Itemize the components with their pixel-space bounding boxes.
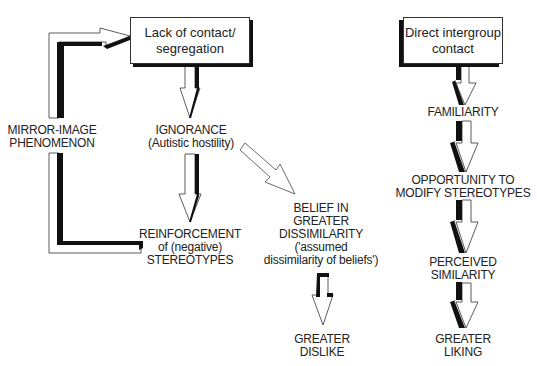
feedback-loop-top-arrow: [49, 28, 130, 118]
arrow-familiarity-to-opportunity: [450, 121, 478, 172]
node-direct-contact-line2: contact: [404, 41, 502, 57]
familiarity-line1: FAMILIARITY: [427, 106, 498, 119]
arrow-contact-to-familiarity: [452, 63, 476, 105]
arrow-belief-to-dislike: [312, 273, 333, 325]
node-lack-of-contact-line2: segregation: [131, 41, 249, 57]
belief-line5: dissimilarity of beliefs'): [264, 254, 378, 267]
node-lack-of-contact-line1: Lack of contact/: [131, 25, 249, 41]
node-greater-dislike: GREATER DISLIKE: [294, 333, 350, 359]
opportunity-line2: MODIFY STEREOTYPES: [396, 187, 531, 200]
mirror-image-line2: PHENOMENON: [8, 137, 97, 150]
node-perceived-similarity: PERCEIVED SIMILARITY: [429, 256, 497, 282]
ignorance-line2: (Autistic hostility): [148, 137, 234, 150]
reinforcement-line3: STEREOTYPES: [139, 254, 241, 267]
arrow-opportunity-to-similarity: [450, 200, 478, 253]
arrow-similarity-to-liking: [450, 282, 478, 328]
arrow-segregation-to-ignorance: [180, 63, 200, 118]
node-lack-of-contact: Lack of contact/ segregation: [130, 17, 250, 64]
node-belief-dissimilarity: BELIEF IN GREATER DISSIMILARITY ('assume…: [264, 202, 378, 267]
node-mirror-image: MIRROR-IMAGE PHENOMENON: [8, 124, 97, 150]
node-opportunity: OPPORTUNITY TO MODIFY STEREOTYPES: [396, 174, 531, 200]
arrow-ignorance-to-reinforcement: [179, 154, 201, 222]
node-greater-liking: GREATER LIKING: [435, 333, 491, 359]
node-ignorance: IGNORANCE (Autistic hostility): [148, 124, 234, 150]
dislike-line2: DISLIKE: [294, 346, 350, 359]
node-reinforcement: REINFORCEMENT of (negative) STEREOTYPES: [139, 228, 241, 267]
liking-line2: LIKING: [435, 346, 491, 359]
similarity-line2: SIMILARITY: [429, 269, 497, 282]
node-direct-contact: Direct intergroup contact: [403, 17, 503, 64]
node-direct-contact-line1: Direct intergroup: [404, 25, 502, 41]
feedback-loop-bottom-arrow: [49, 153, 143, 253]
arrow-ignorance-to-belief: [240, 143, 295, 194]
node-familiarity: FAMILIARITY: [427, 106, 498, 119]
contact-hypothesis-diagram: Lack of contact/ segregation Direct inte…: [0, 0, 537, 366]
